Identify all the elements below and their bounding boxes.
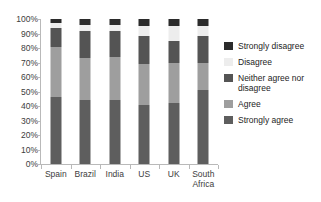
- bar-column[interactable]: [41, 19, 71, 164]
- y-axis-tick-label: 20%: [8, 131, 38, 139]
- bar-segment[interactable]: [168, 103, 179, 164]
- bar-segment[interactable]: [168, 63, 179, 104]
- plot-area: 100%90%80%70%60%50%40%30%20%10%0% SpainB…: [0, 0, 222, 202]
- x-axis-tick-mark: [130, 165, 131, 169]
- y-axis-tick-label: 80%: [8, 44, 38, 52]
- legend-item[interactable]: Agree: [224, 99, 321, 109]
- y-axis-tick-mark: [36, 135, 40, 136]
- x-axis-tick-label: South Africa: [189, 170, 219, 189]
- legend-item-label: Strongly disagree: [238, 41, 304, 51]
- y-axis-tick-label: 30%: [8, 117, 38, 125]
- legend-item[interactable]: Strongly disagree: [224, 41, 321, 51]
- legend-item-label: Strongly agree: [238, 115, 293, 125]
- y-axis-tick-mark: [36, 121, 40, 122]
- bar-column[interactable]: [100, 19, 130, 164]
- x-axis-tick-label: UK: [159, 170, 189, 180]
- bar-segment[interactable]: [80, 100, 91, 164]
- y-axis-labels: 100%90%80%70%60%50%40%30%20%10%0%: [0, 0, 38, 202]
- x-axis-tick-mark: [189, 165, 190, 169]
- bar-segment[interactable]: [80, 58, 91, 100]
- y-axis-tick-label: 10%: [8, 146, 38, 154]
- y-axis-tick-label: 90%: [8, 30, 38, 38]
- legend-swatch-icon: [224, 116, 233, 124]
- bar-segment[interactable]: [139, 36, 150, 64]
- bar-segment[interactable]: [139, 64, 150, 105]
- bar-segment[interactable]: [139, 105, 150, 164]
- bar-column[interactable]: [130, 19, 160, 164]
- chart-screenshot: 100%90%80%70%60%50%40%30%20%10%0% SpainB…: [0, 0, 321, 202]
- x-axis-tick-mark: [159, 165, 160, 169]
- x-axis-tick-label: India: [100, 170, 130, 180]
- bar-segment[interactable]: [139, 26, 150, 36]
- legend-swatch-icon: [224, 74, 233, 82]
- bar-segment[interactable]: [50, 47, 61, 98]
- legend-item[interactable]: Neither agree nor disagree: [224, 73, 321, 93]
- y-axis-tick-mark: [36, 92, 40, 93]
- bar-segment[interactable]: [168, 26, 179, 41]
- legend-item[interactable]: Strongly agree: [224, 115, 321, 125]
- bar-segment[interactable]: [198, 26, 209, 36]
- x-axis-tick-mark: [41, 165, 42, 169]
- y-axis-tick-label: 50%: [8, 88, 38, 96]
- bar-stack[interactable]: [80, 19, 91, 164]
- bar-segment[interactable]: [109, 57, 120, 101]
- bar-segment[interactable]: [50, 97, 61, 164]
- x-axis-tick-label: US: [130, 170, 160, 180]
- bar-stack[interactable]: [109, 19, 120, 164]
- bar-stack[interactable]: [168, 19, 179, 164]
- chart-legend: Strongly disagreeDisagreeNeither agree n…: [224, 41, 321, 131]
- legend-item[interactable]: Disagree: [224, 57, 321, 67]
- bar-column[interactable]: [189, 19, 219, 164]
- bar-segment[interactable]: [109, 100, 120, 164]
- legend-item-label: Neither agree nor disagree: [238, 73, 321, 93]
- legend-item-label: Agree: [238, 99, 261, 109]
- bar-segment[interactable]: [80, 31, 91, 59]
- bar-segment[interactable]: [198, 36, 209, 62]
- bar-segment[interactable]: [198, 90, 209, 164]
- y-axis-tick-mark: [36, 63, 40, 64]
- y-axis-tick-mark: [36, 77, 40, 78]
- bar-segment[interactable]: [109, 31, 120, 57]
- bar-segment[interactable]: [168, 19, 179, 26]
- legend-swatch-icon: [224, 42, 233, 50]
- x-axis-tick-label: Spain: [41, 170, 71, 180]
- bar-stack[interactable]: [50, 19, 61, 164]
- x-axis-tick-label: Brazil: [71, 170, 101, 180]
- bar-segment[interactable]: [198, 63, 209, 91]
- bar-stack[interactable]: [139, 19, 150, 164]
- bar-segment[interactable]: [139, 19, 150, 26]
- bar-stack[interactable]: [198, 19, 209, 164]
- bar-column[interactable]: [159, 19, 189, 164]
- y-axis-tick-label: 60%: [8, 73, 38, 81]
- bar-segment[interactable]: [198, 19, 209, 26]
- bar-segment[interactable]: [168, 41, 179, 63]
- legend-item-label: Disagree: [238, 57, 272, 67]
- y-axis-tick-mark: [36, 164, 40, 165]
- y-axis-tick-mark: [36, 106, 40, 107]
- y-axis-tick-mark: [36, 19, 40, 20]
- legend-swatch-icon: [224, 58, 233, 66]
- y-axis-tick-label: 0%: [8, 160, 38, 168]
- y-axis-tick-label: 100%: [8, 15, 38, 23]
- bar-column[interactable]: [71, 19, 101, 164]
- x-axis-tick-mark: [71, 165, 72, 169]
- y-axis-tick-mark: [36, 150, 40, 151]
- y-axis-tick-label: 40%: [8, 102, 38, 110]
- bar-group: [41, 19, 218, 164]
- y-axis-tick-label: 70%: [8, 59, 38, 67]
- x-axis-tick-mark: [218, 165, 219, 169]
- y-axis-tick-mark: [36, 48, 40, 49]
- y-axis-tick-mark: [36, 34, 40, 35]
- legend-swatch-icon: [224, 100, 233, 108]
- x-axis-tick-mark: [100, 165, 101, 169]
- bar-segment[interactable]: [50, 28, 61, 47]
